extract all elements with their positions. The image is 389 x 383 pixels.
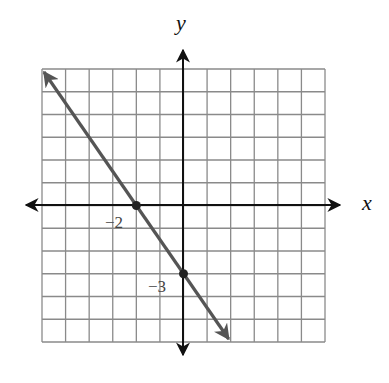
x-intercept-point bbox=[132, 201, 141, 210]
y-axis-label: y bbox=[174, 10, 186, 35]
coordinate-plane: x y −2 −3 bbox=[0, 0, 389, 383]
y-intercept-point bbox=[179, 269, 188, 278]
x-intercept-label: −2 bbox=[105, 213, 123, 232]
x-axis-label: x bbox=[361, 190, 372, 215]
y-intercept-label: −3 bbox=[148, 277, 166, 296]
